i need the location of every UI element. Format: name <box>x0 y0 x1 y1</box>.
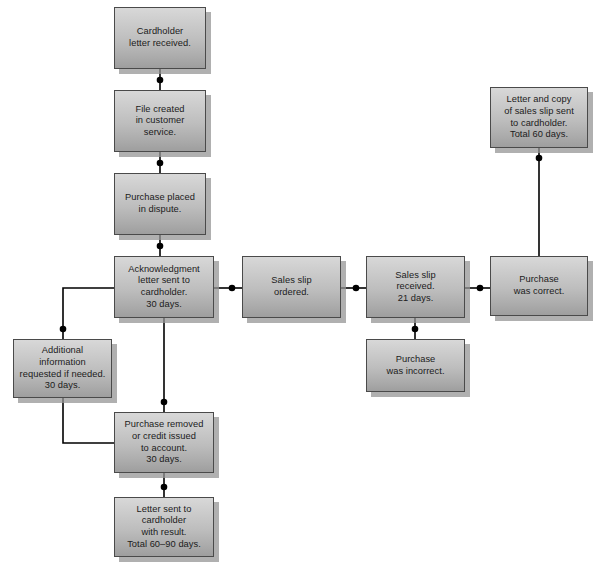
edge-arrow-dot <box>477 285 484 292</box>
node-label: Purchase placed in dispute. <box>121 192 199 215</box>
node-sales-slip-ordered[interactable]: Sales slip ordered. <box>242 256 341 318</box>
edge-arrow-dot <box>157 160 164 167</box>
edge-arrow-dot <box>157 77 164 84</box>
edge-arrow-dot <box>157 243 164 250</box>
edge-arrow-dot <box>353 285 360 292</box>
node-sales-slip-received[interactable]: Sales slip received. 21 days. <box>366 256 465 318</box>
edge-e-ack-to-additional-info <box>63 288 114 339</box>
edge-arrow-dot <box>536 155 543 162</box>
node-label: Sales slip ordered. <box>267 275 315 298</box>
node-purchase-placed-in-dispute[interactable]: Purchase placed in dispute. <box>114 173 206 235</box>
edge-arrow-dot <box>229 285 236 292</box>
node-purchase-was-incorrect[interactable]: Purchase was incorrect. <box>366 339 465 392</box>
node-label: Purchase was incorrect. <box>382 354 448 377</box>
node-purchase-removed-or-credit-issued[interactable]: Purchase removed or credit issued to acc… <box>114 412 214 473</box>
node-label: Letter sent to cardholder with result. T… <box>123 504 205 550</box>
node-purchase-was-correct[interactable]: Purchase was correct. <box>490 256 588 316</box>
node-acknowledgment-letter-sent[interactable]: Acknowledgment letter sent to cardholder… <box>114 256 214 318</box>
node-label: Cardholder letter received. <box>125 26 195 49</box>
node-label: Purchase removed or credit issued to acc… <box>121 419 208 465</box>
node-label: Additional information requested if need… <box>16 345 110 391</box>
node-label: File created in customer service. <box>131 104 188 139</box>
node-file-created[interactable]: File created in customer service. <box>114 90 206 152</box>
node-additional-information-requested[interactable]: Additional information requested if need… <box>13 339 112 398</box>
node-letter-and-copy-of-sales-slip[interactable]: Letter and copy of sales slip sent to ca… <box>490 87 588 148</box>
edge-arrow-dot <box>412 326 419 333</box>
node-label: Sales slip received. 21 days. <box>391 270 439 305</box>
node-cardholder-letter-received[interactable]: Cardholder letter received. <box>114 7 206 69</box>
node-label: Purchase was correct. <box>510 274 569 297</box>
edge-arrow-dot <box>161 484 168 491</box>
edge-arrow-dot <box>60 326 67 333</box>
node-label: Letter and copy of sales slip sent to ca… <box>500 94 578 140</box>
node-letter-sent-with-result[interactable]: Letter sent to cardholder with result. T… <box>114 497 214 557</box>
edge-arrow-dot <box>161 399 168 406</box>
flowchart-canvas: Cardholder letter received.File created … <box>0 0 595 563</box>
node-label: Acknowledgment letter sent to cardholder… <box>124 264 204 310</box>
edge-e-additional-info-to-removed <box>63 398 114 443</box>
